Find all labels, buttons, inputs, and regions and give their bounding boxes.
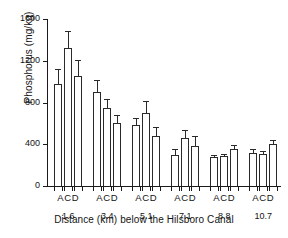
bar [230,149,238,186]
bar [259,154,267,186]
error-bar-cap [192,136,198,137]
error-bar-cap [211,155,217,156]
y-tick-label: 0 [35,180,40,190]
error-bar-cap [75,60,81,61]
error-bar [195,136,196,146]
y-tick: 400 [43,144,47,145]
bar [191,146,199,186]
bar [132,125,140,186]
x-tick [171,187,172,191]
x-tick [210,187,211,191]
error-bar-cap [104,99,110,100]
x-tick [277,187,278,191]
error-bar-cap [182,130,188,131]
y-tick: 1600 [43,19,47,20]
error-bar-cap [143,101,149,102]
x-tick [230,187,231,191]
error-bar-cap [114,115,120,116]
error-bar-cap [172,149,178,150]
error-bar [146,101,147,113]
bar [142,113,150,186]
x-tick [113,187,114,191]
bar [181,138,189,186]
group-subcategory-label: ACD [87,192,127,203]
error-bar-cap [260,151,266,152]
x-tick [160,187,161,191]
error-bar [136,118,137,126]
x-tick [220,187,221,191]
x-tick [269,187,270,191]
x-tick [54,187,55,191]
bar [74,76,82,186]
y-tick-label: 1600 [20,13,40,23]
bar [210,157,218,186]
y-tick-label: 1200 [20,55,40,65]
bar [93,92,101,186]
x-tick [132,187,133,191]
y-axis-line [47,19,48,186]
group-subcategory-label: ACD [48,192,88,203]
error-bar-cap [153,127,159,128]
x-tick [121,187,122,191]
x-tick [93,187,94,191]
error-bar [68,31,69,48]
x-tick [199,187,200,191]
y-tick: 0 [43,186,47,187]
group-subcategory-label: ACD [204,192,244,203]
x-tick [181,187,182,191]
x-tick [142,187,143,191]
error-bar [78,60,79,76]
error-bar [156,127,157,136]
x-tick [259,187,260,191]
error-bar [97,80,98,93]
phosphorus-bar-chart: Phosphorus (mg/kg) 040080012001600 ACD1.… [0,0,288,238]
error-bar [117,115,118,124]
x-tick [152,187,153,191]
error-bar [58,69,59,84]
group-subcategory-label: ACD [165,192,205,203]
error-bar [107,99,108,107]
bar [249,153,257,186]
bar [54,84,62,186]
error-bar-cap [221,154,227,155]
bar [103,108,111,186]
error-bar-cap [250,149,256,150]
x-tick [249,187,250,191]
x-tick [191,187,192,191]
x-tick [103,187,104,191]
bar [113,123,121,186]
plot-area: 040080012001600 [47,19,281,186]
y-tick-label: 400 [25,138,40,148]
group-subcategory-label: ACD [126,192,166,203]
error-bar-cap [65,31,71,32]
bar [152,136,160,186]
error-bar-cap [231,145,237,146]
x-tick [74,187,75,191]
bar [64,48,72,186]
error-bar-cap [133,118,139,119]
x-axis-title: Distance (km) below the Hilsboro Canal [0,214,288,225]
x-tick [82,187,83,191]
error-bar-cap [270,140,276,141]
bar [269,144,277,186]
y-tick-label: 800 [25,97,40,107]
error-bar-cap [94,80,100,81]
error-bar-cap [55,69,61,70]
y-tick: 800 [43,103,47,104]
x-tick [238,187,239,191]
y-tick: 1200 [43,61,47,62]
x-tick [64,187,65,191]
bar [171,155,179,186]
error-bar [185,130,186,138]
group-subcategory-label: ACD [243,192,283,203]
bar [220,156,228,186]
